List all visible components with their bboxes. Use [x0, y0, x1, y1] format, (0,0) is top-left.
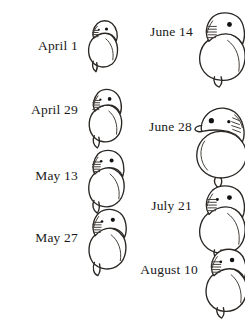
stage-label-may-13: May 13	[0, 168, 78, 184]
stage-may-27: May 27	[0, 220, 120, 286]
stage-label-june-28: June 28	[112, 119, 192, 135]
bird-outline-icon	[192, 97, 245, 189]
bird-growth-figure: April 1 A	[0, 0, 245, 325]
bird-outline-icon	[200, 240, 245, 320]
stage-august-10: August 10	[108, 252, 245, 325]
stage-label-august-10: August 10	[108, 262, 198, 278]
stage-label-may-27: May 27	[0, 230, 78, 246]
stage-label-july-21: July 21	[120, 198, 192, 214]
stage-label-june-14: June 14	[118, 24, 193, 40]
stage-label-april-29: April 29	[0, 102, 78, 118]
bird-outline-icon	[194, 4, 245, 88]
stage-label-april-1: April 1	[0, 38, 78, 54]
stage-june-14: June 14	[118, 12, 245, 90]
